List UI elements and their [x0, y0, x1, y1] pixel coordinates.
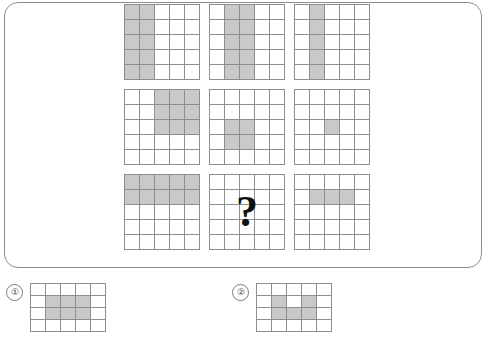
grid-cell-r3c5 — [270, 35, 285, 50]
answer-option-1[interactable]: ① — [6, 283, 106, 332]
grid-cell-r1c4 — [340, 90, 355, 105]
matrix-grid-cell-r3c2 — [209, 174, 285, 250]
grid-cell-r2c4 — [170, 105, 185, 120]
grid-cell-r3c4 — [255, 35, 270, 50]
grid-cell-r1c5 — [270, 175, 285, 190]
grid-cell-r2c4 — [255, 190, 270, 205]
grid-cell-r4c1 — [295, 50, 310, 65]
matrix-cell-r2c1 — [122, 87, 207, 172]
grid-cell-r2c2 — [140, 190, 155, 205]
grid-cell-r1c3 — [325, 5, 340, 20]
grid-cell-r2c2 — [310, 20, 325, 35]
grid-cell-r4c5 — [355, 220, 370, 235]
grid-cell-r4c5 — [270, 135, 285, 150]
grid-cell-r4c3 — [240, 220, 255, 235]
grid-cell-r1c4 — [170, 175, 185, 190]
grid-cell-r4c5 — [270, 220, 285, 235]
grid-cell-r5c4 — [340, 150, 355, 165]
matrix-cell-r1c1 — [122, 2, 207, 87]
grid-cell-r4c3 — [325, 135, 340, 150]
grid-cell-r5c3 — [240, 65, 255, 80]
grid-cell-r2c5 — [355, 105, 370, 120]
grid-cell-r5c5 — [185, 150, 200, 165]
grid-cell-r3c4 — [170, 35, 185, 50]
grid-cell-r3c2 — [272, 308, 287, 320]
grid-cell-r1c1 — [125, 90, 140, 105]
grid-cell-r1c5 — [185, 90, 200, 105]
grid-cell-r2c1 — [210, 20, 225, 35]
matrix-grid-cell-r1c3 — [294, 4, 370, 80]
grid-cell-r4c1 — [125, 50, 140, 65]
grid-cell-r3c5 — [355, 120, 370, 135]
grid-cell-r1c2 — [272, 284, 287, 296]
grid-cell-r5c3 — [325, 65, 340, 80]
grid-cell-r1c3 — [155, 5, 170, 20]
grid-cell-r2c4 — [340, 105, 355, 120]
grid-cell-r1c4 — [340, 5, 355, 20]
grid-cell-r3c5 — [185, 120, 200, 135]
grid-cell-r2c1 — [125, 105, 140, 120]
grid-cell-r2c3 — [155, 190, 170, 205]
grid-cell-r5c2 — [140, 150, 155, 165]
grid-cell-r5c4 — [340, 235, 355, 250]
grid-cell-r2c4 — [170, 20, 185, 35]
grid-cell-r3c1 — [125, 120, 140, 135]
grid-cell-r2c1 — [257, 296, 272, 308]
grid-cell-r1c5 — [185, 175, 200, 190]
grid-cell-r3c2 — [225, 120, 240, 135]
matrix-grid-cell-r2c1 — [124, 89, 200, 165]
grid-cell-r1c2 — [225, 90, 240, 105]
grid-cell-r3c4 — [255, 205, 270, 220]
grid-cell-r3c3 — [61, 308, 76, 320]
grid-cell-r4c2 — [46, 320, 61, 332]
grid-cell-r5c5 — [270, 235, 285, 250]
grid-cell-r5c2 — [310, 150, 325, 165]
grid-cell-r2c3 — [240, 190, 255, 205]
grid-cell-r1c4 — [170, 5, 185, 20]
grid-cell-r4c2 — [310, 50, 325, 65]
grid-cell-r3c1 — [295, 120, 310, 135]
grid-cell-r4c1 — [210, 135, 225, 150]
grid-cell-r3c3 — [240, 120, 255, 135]
grid-cell-r5c2 — [310, 235, 325, 250]
matrix-cell-r1c3 — [292, 2, 377, 87]
grid-cell-r2c4 — [255, 20, 270, 35]
grid-cell-r5c1 — [210, 235, 225, 250]
grid-cell-r2c3 — [325, 105, 340, 120]
grid-cell-r1c2 — [310, 5, 325, 20]
grid-cell-r2c5 — [317, 296, 332, 308]
grid-cell-r5c4 — [170, 150, 185, 165]
grid-cell-r5c3 — [240, 235, 255, 250]
grid-cell-r4c1 — [210, 220, 225, 235]
grid-cell-r3c1 — [295, 205, 310, 220]
matrix-cell-r3c3 — [292, 172, 377, 257]
grid-cell-r5c4 — [255, 150, 270, 165]
grid-cell-r4c1 — [257, 320, 272, 332]
grid-cell-r1c1 — [210, 175, 225, 190]
grid-cell-r2c5 — [270, 190, 285, 205]
grid-cell-r4c5 — [355, 50, 370, 65]
grid-cell-r1c2 — [225, 5, 240, 20]
grid-cell-r4c4 — [340, 50, 355, 65]
grid-cell-r3c1 — [210, 35, 225, 50]
grid-cell-r1c5 — [270, 90, 285, 105]
grid-cell-r4c3 — [155, 50, 170, 65]
grid-cell-r5c1 — [295, 235, 310, 250]
grid-cell-r5c3 — [155, 65, 170, 80]
grid-cell-r5c1 — [295, 150, 310, 165]
grid-cell-r4c3 — [287, 320, 302, 332]
grid-cell-r1c4 — [340, 175, 355, 190]
grid-cell-r2c4 — [170, 190, 185, 205]
grid-cell-r4c5 — [185, 135, 200, 150]
grid-cell-r1c4 — [255, 5, 270, 20]
grid-cell-r4c3 — [240, 135, 255, 150]
grid-cell-r3c3 — [155, 35, 170, 50]
grid-cell-r4c5 — [91, 320, 106, 332]
grid-cell-r5c3 — [325, 150, 340, 165]
answer-option-2[interactable]: ② — [232, 283, 332, 332]
matrix-grid-cell-r2c2 — [209, 89, 285, 165]
grid-cell-r3c5 — [91, 308, 106, 320]
grid-cell-r2c2 — [272, 296, 287, 308]
matrix-grid-cell-r3c3 — [294, 174, 370, 250]
grid-cell-r3c3 — [325, 205, 340, 220]
